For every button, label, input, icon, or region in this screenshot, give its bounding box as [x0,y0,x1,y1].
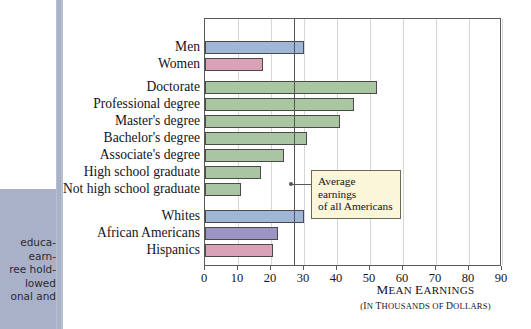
margin-vertical-rule-inner [57,0,61,329]
x-axis-tick [435,266,436,270]
textbook-left-margin: educa- earn- ree hold- lowed onal and [0,0,63,329]
bar [205,98,354,111]
margin-caption-line: earn- [0,250,56,264]
category-label: Whites [161,208,200,224]
bar [205,81,377,94]
category-label: Women [158,56,200,72]
x-axis-tick [204,266,205,270]
category-label: Not high school graduate [63,181,200,197]
callout-leader-line [291,184,311,185]
bar-row [205,132,500,145]
x-axis-tick [303,266,304,270]
bar-row [205,149,500,162]
bar-row [205,41,500,54]
bar-row [205,98,500,111]
bar-row [205,115,500,128]
gridline [502,19,503,265]
bar [205,227,278,240]
x-axis-tick-label: 10 [231,271,244,286]
bar-row [205,244,500,257]
category-label: Doctorate [146,79,200,95]
bar [205,166,261,179]
margin-caption-line: onal and [0,290,56,304]
category-label: Master's degree [115,113,200,129]
category-label: Professional degree [93,96,200,112]
category-label: Men [175,39,200,55]
category-label: African Americans [97,225,200,241]
x-axis-tick [501,266,502,270]
bar-row [205,227,500,240]
x-axis-tick-label: 20 [264,271,277,286]
x-axis-tick [468,266,469,270]
bar [205,183,241,196]
average-reference-line [294,18,295,266]
bar-row [205,58,500,71]
bar [205,41,304,54]
x-axis-title: MEAN EARNINGS (IN THOUSANDS OF DOLLARS) [338,282,513,311]
bar [205,149,284,162]
chart-plot-area [204,18,501,266]
bar [205,210,304,223]
bar [205,115,340,128]
x-axis-tick [402,266,403,270]
x-axis-tick [336,266,337,270]
x-axis-tick [369,266,370,270]
x-axis-tick [270,266,271,270]
bar-row [205,81,500,94]
margin-caption-text: educa- earn- ree hold- lowed onal and [0,236,56,304]
category-label: Associate's degree [100,147,200,163]
margin-caption-line: lowed [0,277,56,291]
margin-caption-line: ree hold- [0,263,56,277]
category-label: Bachelor's degree [104,130,200,146]
x-axis-tick [237,266,238,270]
average-earnings-callout: Average earnings of all Americans [311,170,401,219]
margin-white-block [0,0,56,189]
category-label: High school graduate [84,164,200,180]
x-axis-title-units: (IN THOUSANDS OF DOLLARS) [338,300,513,311]
callout-line-1: Average earnings [318,175,395,200]
margin-caption-line: educa- [0,236,56,250]
bar [205,132,307,145]
bar [205,58,263,71]
x-axis-title-primary: MEAN EARNINGS [338,282,513,298]
callout-line-2: of all Americans [318,200,395,213]
x-axis-tick-label: 0 [201,271,207,286]
x-axis-tick-label: 30 [297,271,310,286]
bar [205,244,273,257]
category-label: Hispanics [146,242,200,258]
